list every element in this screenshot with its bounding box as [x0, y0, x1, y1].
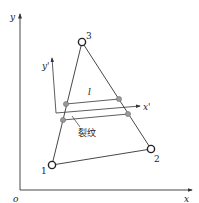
crack-leader-line — [72, 116, 80, 127]
node-3-label: 3 — [86, 31, 92, 41]
y-axis-label: y — [9, 12, 16, 22]
x-axis-label: x — [184, 194, 189, 203]
crack-upper-edge — [66, 99, 119, 104]
origin-label: o — [13, 194, 19, 203]
node-2-label: 2 — [154, 154, 160, 164]
crack-point — [63, 101, 68, 106]
global-axes — [20, 14, 192, 190]
node-2 — [147, 145, 154, 152]
crack-point — [125, 111, 130, 116]
y-prime-label: y' — [41, 61, 50, 71]
crack-label: 裂纹 — [78, 127, 96, 138]
diagram-svg: y x o y' x' l 裂纹 3 1 — [0, 0, 199, 203]
y-prime-axis — [52, 58, 56, 113]
node-3 — [78, 38, 85, 45]
triangular-element-crack-diagram: y x o y' x' l 裂纹 3 1 — [0, 0, 199, 203]
crack-length-label: l — [88, 87, 91, 97]
crack-point — [60, 117, 65, 122]
node-1-label: 1 — [41, 166, 47, 176]
crack-point — [116, 96, 121, 101]
node-1 — [48, 161, 55, 168]
x-prime-label: x' — [143, 102, 151, 112]
